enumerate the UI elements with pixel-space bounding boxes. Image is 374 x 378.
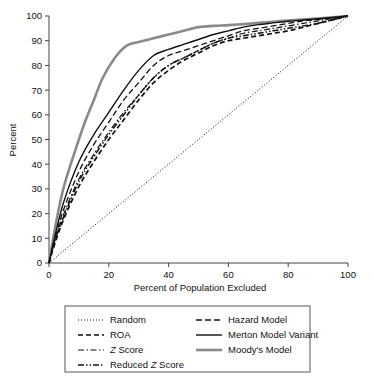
chart-figure: 0102030405060708090100 020406080100 Perc… xyxy=(0,0,374,378)
x-tick-label: 40 xyxy=(163,269,174,280)
x-tick-label: 0 xyxy=(46,269,51,280)
y-tick-label: 90 xyxy=(31,35,42,46)
legend-label-random: Random xyxy=(110,314,146,325)
legend-label-merton-model-variant: Merton Model Variant xyxy=(228,329,318,340)
y-tick-label: 100 xyxy=(26,10,42,21)
y-tick-label: 0 xyxy=(37,257,42,268)
x-tick-label: 20 xyxy=(104,269,115,280)
x-tick-label: 80 xyxy=(283,269,294,280)
gini-curve-chart: 0102030405060708090100 020406080100 Perc… xyxy=(0,0,374,378)
x-tick-label: 60 xyxy=(223,269,234,280)
y-tick-label: 40 xyxy=(31,159,42,170)
x-axis-title: Percent of Population Excluded xyxy=(134,282,267,293)
y-tick-label: 30 xyxy=(31,183,42,194)
y-tick-label: 80 xyxy=(31,60,42,71)
y-axis-title: Percent xyxy=(7,123,18,156)
legend-label-z-score: Z Score xyxy=(109,344,143,355)
legend-label-reduced-z-score: Reduced Z Score xyxy=(110,359,184,370)
legend-label-moody-s-model: Moody's Model xyxy=(228,344,292,355)
y-tick-label: 20 xyxy=(31,208,42,219)
y-tick-label: 50 xyxy=(31,134,42,145)
y-tick-label: 60 xyxy=(31,109,42,120)
legend-label-roa: ROA xyxy=(110,329,131,340)
x-tick-label: 100 xyxy=(340,269,356,280)
legend-label-hazard-model: Hazard Model xyxy=(228,314,287,325)
y-tick-label: 10 xyxy=(31,233,42,244)
y-tick-label: 70 xyxy=(31,85,42,96)
